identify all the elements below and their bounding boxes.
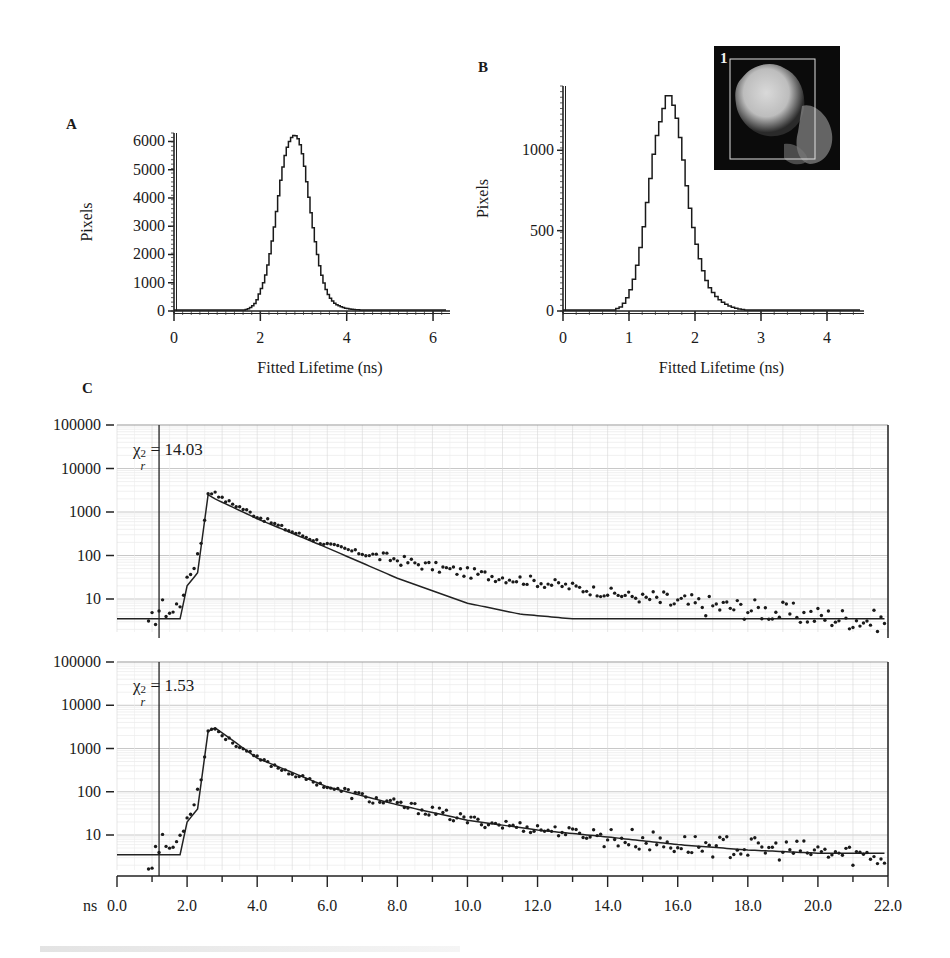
svg-text:100000: 100000 [53,416,101,433]
svg-text:16.0: 16.0 [664,897,692,914]
svg-text:10000: 10000 [61,696,101,713]
figure-caption-fragment [40,946,460,952]
svg-text:14.0: 14.0 [594,897,622,914]
svg-text:100: 100 [77,783,101,800]
chi-squared-top: χ2r= 14.03 [133,440,203,460]
svg-text:100: 100 [77,547,101,564]
svg-text:10: 10 [85,590,101,607]
svg-text:20.0: 20.0 [804,897,832,914]
svg-text:8.0: 8.0 [387,897,407,914]
chi-squared-bottom: χ2r= 1.53 [133,676,194,696]
svg-text:10: 10 [85,826,101,843]
cell-image [714,46,840,170]
svg-text:2.0: 2.0 [177,897,197,914]
svg-text:10000: 10000 [61,460,101,477]
svg-text:4.0: 4.0 [247,897,267,914]
svg-text:12.0: 12.0 [524,897,552,914]
svg-text:1000: 1000 [69,503,101,520]
svg-text:6.0: 6.0 [317,897,337,914]
svg-text:100000: 100000 [53,653,101,670]
svg-text:1000: 1000 [69,740,101,757]
svg-text:18.0: 18.0 [734,897,762,914]
svg-text:ns: ns [83,897,97,914]
svg-text:22.0: 22.0 [874,897,902,914]
cell-image-inset: 1 [714,46,840,170]
svg-text:0.0: 0.0 [107,897,127,914]
svg-text:10.0: 10.0 [453,897,481,914]
inset-label: 1 [720,50,728,67]
